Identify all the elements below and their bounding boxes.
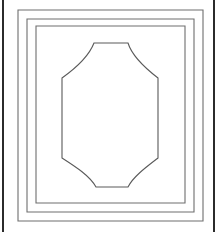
frame-panel-illustration xyxy=(0,0,218,232)
drawing-canvas: Nested Frame with Octagonal Center Panel xyxy=(0,0,218,232)
